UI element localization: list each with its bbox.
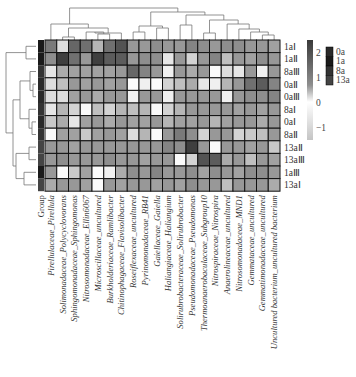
heatmap-cell bbox=[127, 153, 139, 166]
heatmap-cell bbox=[45, 40, 57, 53]
row-labels: 1aⅠ1aⅡ8aⅢ0aⅡ0aⅢ8aⅠ0aⅠ8aⅡ13aⅡ13aⅢ1aⅢ13aⅠ bbox=[284, 42, 305, 191]
heatmap-cell bbox=[268, 103, 280, 116]
heatmap-cell bbox=[268, 90, 280, 103]
heatmap-cell bbox=[127, 103, 139, 116]
heatmap-cell bbox=[163, 53, 175, 66]
heatmap-cell bbox=[116, 116, 128, 129]
column-labels: GroupPirellulaceae_PirellulaSolimonadace… bbox=[36, 194, 279, 349]
heatmap-cell bbox=[104, 65, 116, 78]
heatmap-cell bbox=[139, 103, 151, 116]
column-label: Gemmatimonadaceae_uncultured bbox=[257, 195, 267, 312]
heatmap-cell bbox=[116, 40, 128, 53]
heatmap-cell bbox=[139, 40, 151, 53]
group-legend-label: 8a bbox=[336, 66, 346, 76]
heatmap-cell bbox=[116, 141, 128, 154]
heatmap-cell bbox=[174, 40, 186, 53]
heatmap-cell bbox=[45, 65, 57, 78]
heatmap-cell bbox=[104, 179, 116, 192]
heatmap-cell bbox=[186, 179, 198, 192]
column-dendrogram bbox=[51, 8, 274, 40]
heatmap-cell bbox=[69, 153, 81, 166]
heatmap-cell bbox=[127, 166, 139, 179]
row-label: 1aⅢ bbox=[284, 168, 300, 178]
heatmap-cell bbox=[116, 179, 128, 192]
heatmap-cell bbox=[221, 153, 233, 166]
heatmap-cell bbox=[174, 78, 186, 91]
group-cell bbox=[38, 128, 44, 141]
heatmap-cell bbox=[233, 179, 245, 192]
heatmap-cell bbox=[210, 116, 222, 129]
heatmap-cell bbox=[163, 78, 175, 91]
heatmap-cell bbox=[221, 40, 233, 53]
heatmap-cell bbox=[57, 78, 69, 91]
heatmap-figure: 1aⅠ1aⅡ8aⅢ0aⅡ0aⅢ8aⅠ0aⅠ8aⅡ13aⅡ13aⅢ1aⅢ13aⅠ … bbox=[0, 0, 356, 377]
heatmap-cell bbox=[45, 128, 57, 141]
heatmap-cell bbox=[163, 166, 175, 179]
color-scale-tick-label: 0 bbox=[316, 98, 321, 108]
heatmap-cell bbox=[210, 103, 222, 116]
heatmap-cell bbox=[268, 78, 280, 91]
heatmap-cells bbox=[45, 40, 280, 191]
heatmap-cell bbox=[174, 128, 186, 141]
heatmap-cell bbox=[57, 40, 69, 53]
heatmap-cell bbox=[139, 128, 151, 141]
heatmap-cell bbox=[139, 53, 151, 66]
heatmap-cell bbox=[186, 128, 198, 141]
heatmap-cell bbox=[186, 116, 198, 129]
heatmap-cell bbox=[80, 128, 92, 141]
heatmap-cell bbox=[233, 166, 245, 179]
heatmap-cell bbox=[163, 90, 175, 103]
heatmap-cell bbox=[186, 40, 198, 53]
heatmap-cell bbox=[151, 103, 163, 116]
group-cell bbox=[38, 90, 44, 103]
heatmap-cell bbox=[221, 53, 233, 66]
heatmap-cell bbox=[139, 78, 151, 91]
heatmap-cell bbox=[151, 65, 163, 78]
row-dendrogram bbox=[6, 46, 36, 185]
heatmap-cell bbox=[198, 40, 210, 53]
color-scale-tick-label: −1 bbox=[316, 123, 326, 133]
column-label: Chitinophagaceae_Flavisolibacter bbox=[116, 195, 126, 315]
column-label: Burkholderiaceae_Ramlibacter bbox=[105, 195, 115, 304]
heatmap-cell bbox=[186, 141, 198, 154]
group-cell bbox=[38, 141, 44, 154]
heatmap-cell bbox=[221, 65, 233, 78]
heatmap-cell bbox=[69, 40, 81, 53]
column-label: Uncultured bacterium_uncultured bacteriu… bbox=[269, 195, 279, 349]
heatmap-cell bbox=[233, 90, 245, 103]
heatmap-cell bbox=[92, 166, 104, 179]
heatmap-cell bbox=[210, 53, 222, 66]
heatmap-cell bbox=[268, 53, 280, 66]
heatmap-cell bbox=[221, 166, 233, 179]
heatmap-cell bbox=[45, 103, 57, 116]
heatmap-cell bbox=[57, 90, 69, 103]
column-label: Nitrosomonadaceae_Ellin6067 bbox=[81, 195, 91, 304]
group-cell bbox=[38, 166, 44, 179]
heatmap-cell bbox=[139, 166, 151, 179]
group-cell bbox=[38, 103, 44, 116]
heatmap-cell bbox=[210, 179, 222, 192]
row-label: 1aⅡ bbox=[284, 54, 298, 64]
heatmap-cell bbox=[210, 166, 222, 179]
heatmap-cell bbox=[45, 166, 57, 179]
heatmap-cell bbox=[69, 103, 81, 116]
heatmap-cell bbox=[245, 141, 257, 154]
heatmap-cell bbox=[186, 103, 198, 116]
color-scale-bar bbox=[307, 40, 313, 140]
heatmap-cell bbox=[221, 128, 233, 141]
heatmap-cell bbox=[245, 78, 257, 91]
row-label: 8aⅢ bbox=[284, 67, 300, 77]
heatmap-cell bbox=[69, 78, 81, 91]
group-axis-label: Group bbox=[36, 195, 46, 217]
heatmap-cell bbox=[127, 179, 139, 192]
heatmap-cell bbox=[233, 103, 245, 116]
heatmap-cell bbox=[198, 90, 210, 103]
column-label: Gaiellaceae_Gaiella bbox=[152, 195, 162, 267]
heatmap-cell bbox=[127, 65, 139, 78]
heatmap-cell bbox=[245, 116, 257, 129]
heatmap-cell bbox=[245, 65, 257, 78]
heatmap-cell bbox=[221, 78, 233, 91]
heatmap-cell bbox=[151, 53, 163, 66]
heatmap-cell bbox=[233, 78, 245, 91]
heatmap-cell bbox=[57, 179, 69, 192]
